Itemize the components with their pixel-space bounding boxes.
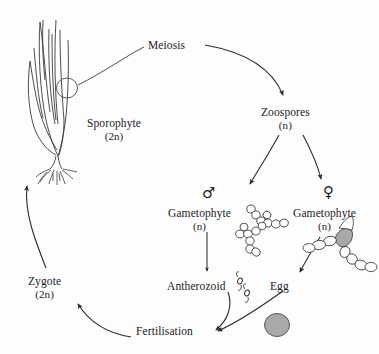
label-antherozoid: Antherozoid — [167, 280, 226, 293]
label-zygote: Zygote (2n) — [28, 275, 61, 301]
sporangium-circle — [57, 78, 78, 98]
egg-cell-illustration — [265, 314, 290, 337]
label-sporophyte-text: Sporophyte — [87, 117, 141, 129]
arrow-zygote-to-sporophyte — [26, 186, 46, 268]
meiosis-leader-line — [78, 47, 144, 85]
arrow-meiosis-to-zoospores — [205, 45, 283, 95]
antherozoid-cells — [236, 272, 250, 302]
label-gametophyte-female-text: Gametophyte — [293, 207, 356, 219]
antherozoid-cell-2 — [243, 284, 250, 302]
label-gametophyte-male-text: Gametophyte — [168, 207, 231, 219]
label-egg: Egg — [270, 280, 289, 293]
label-zoospores: Zoospores (n) — [261, 106, 310, 132]
label-sporophyte: Sporophyte (2n) — [87, 117, 141, 143]
label-zygote-ploidy: (2n) — [28, 288, 61, 301]
label-fertilisation-text: Fertilisation — [136, 325, 193, 337]
sporophyte-illustration — [28, 20, 77, 185]
female-symbol-icon: ♀ — [323, 185, 334, 200]
label-gametophyte-female: Gametophyte (n) — [293, 207, 356, 233]
label-antherozoid-text: Antherozoid — [167, 280, 226, 292]
arrow-antherozoid-to-fertilisation — [216, 292, 230, 330]
male-symbol-icon: ♂ — [202, 186, 215, 201]
label-fertilisation: Fertilisation — [136, 325, 193, 338]
label-meiosis-text: Meiosis — [148, 39, 185, 51]
arrow-fertilisation-to-zygote — [78, 304, 131, 337]
label-zoospores-text: Zoospores — [261, 106, 310, 118]
arrow-zoospores-to-male-gametophyte — [250, 135, 279, 184]
label-egg-text: Egg — [270, 280, 289, 292]
male-gametophyte-illustration — [235, 205, 289, 257]
label-zoospores-ploidy: (n) — [261, 119, 310, 132]
label-zygote-text: Zygote — [28, 275, 61, 287]
life-cycle-diagram: Meiosis Zoospores (n) Sporophyte (2n) Ga… — [0, 0, 379, 354]
antherozoid-cell-1 — [236, 272, 243, 290]
label-meiosis: Meiosis — [148, 39, 185, 52]
arrow-zoospores-to-female-gametophyte — [303, 135, 321, 179]
label-gametophyte-female-ploidy: (n) — [293, 220, 356, 233]
label-gametophyte-male: Gametophyte (n) — [168, 207, 231, 233]
label-sporophyte-ploidy: (2n) — [87, 130, 141, 143]
label-gametophyte-male-ploidy: (n) — [168, 220, 231, 233]
